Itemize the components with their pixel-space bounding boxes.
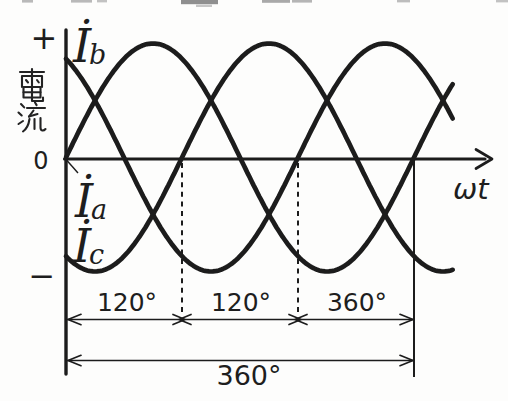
three-phase-current-chart: + 電流 0 − İ b İ a İ c ωt 1 xyxy=(0,0,508,401)
degree-markers xyxy=(182,158,414,377)
segment-label-1: 120° xyxy=(97,288,157,317)
y-axis-unit-label: 電流 xyxy=(19,69,46,132)
segment-label-3: 360° xyxy=(327,288,387,317)
y-axis-zero-label: 0 xyxy=(33,147,48,175)
page-crop-artifacts xyxy=(22,0,508,7)
y-axis-minus-label: − xyxy=(29,257,56,295)
segment-label-2: 120° xyxy=(211,288,271,317)
curve-ib-subscript: b xyxy=(89,39,106,70)
curve-ia-subscript: a xyxy=(91,194,107,225)
curve-label-ic: İ c xyxy=(72,218,104,273)
figure-canvas: + 電流 0 − İ b İ a İ c ωt 1 xyxy=(0,0,508,401)
origin-leader-line xyxy=(67,160,79,173)
total-label: 360° xyxy=(216,360,281,391)
curve-ic-subscript: c xyxy=(89,239,104,270)
y-axis-plus-label: + xyxy=(31,19,58,57)
curve-label-ib: İ b xyxy=(72,18,106,73)
dimension-annotations xyxy=(66,314,414,365)
x-axis-label: ωt xyxy=(453,172,490,206)
